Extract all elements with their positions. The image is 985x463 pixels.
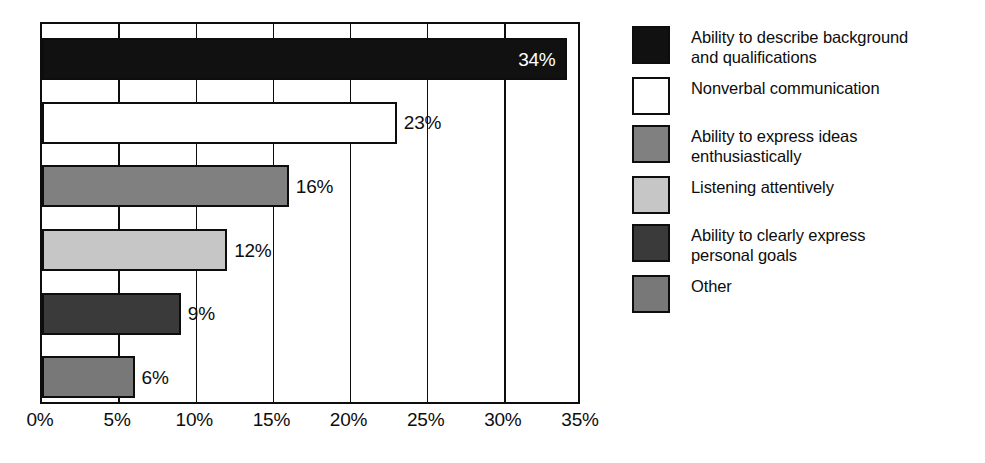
legend-item-5[interactable]: Ability to clearly express personal goal… bbox=[632, 224, 972, 265]
legend-swatch-icon bbox=[632, 176, 670, 214]
x-axis: 0%5%10%15%20%25%30%35% bbox=[40, 404, 580, 440]
bar-value-label: 12% bbox=[234, 241, 271, 260]
bar-5[interactable] bbox=[42, 293, 181, 335]
bar-row: 34% bbox=[42, 38, 578, 80]
bar-value-label: 16% bbox=[296, 177, 333, 196]
bar-chart-figure: 34%23%16%12%9%6% 0%5%10%15%20%25%30%35% … bbox=[0, 0, 985, 463]
legend-item-2[interactable]: Nonverbal communication bbox=[632, 77, 972, 115]
x-tick-label: 35% bbox=[561, 410, 598, 429]
x-tick-label: 5% bbox=[104, 410, 131, 429]
bar-6[interactable] bbox=[42, 356, 135, 398]
legend: Ability to describe background and quali… bbox=[632, 26, 972, 323]
bar-value-label: 34% bbox=[518, 50, 555, 69]
x-tick-label: 15% bbox=[253, 410, 290, 429]
bar-4[interactable] bbox=[42, 229, 227, 271]
legend-label: Ability to clearly express personal goal… bbox=[691, 224, 865, 265]
legend-label: Other bbox=[691, 275, 732, 296]
legend-item-6[interactable]: Other bbox=[632, 275, 972, 313]
legend-swatch-icon bbox=[632, 26, 670, 64]
x-tick-label: 25% bbox=[407, 410, 444, 429]
bar-row: 16% bbox=[42, 165, 578, 207]
legend-swatch-icon bbox=[632, 77, 670, 115]
x-tick-label: 10% bbox=[176, 410, 213, 429]
bar-3[interactable] bbox=[42, 165, 289, 207]
bars-layer: 34%23%16%12%9%6% bbox=[42, 24, 578, 402]
bar-2[interactable] bbox=[42, 102, 397, 144]
legend-label: Ability to express ideas enthusiasticall… bbox=[691, 125, 857, 166]
bar-row: 23% bbox=[42, 102, 578, 144]
x-tick-label: 30% bbox=[484, 410, 521, 429]
legend-item-3[interactable]: Ability to express ideas enthusiasticall… bbox=[632, 125, 972, 166]
bar-value-label: 9% bbox=[188, 304, 215, 323]
x-tick-label: 0% bbox=[26, 410, 53, 429]
legend-label: Ability to describe background and quali… bbox=[691, 26, 908, 67]
bar-row: 6% bbox=[42, 356, 578, 398]
legend-label: Nonverbal communication bbox=[691, 77, 879, 98]
bar-value-label: 6% bbox=[142, 368, 169, 387]
x-tick-label: 20% bbox=[330, 410, 367, 429]
legend-swatch-icon bbox=[632, 275, 670, 313]
bar-row: 9% bbox=[42, 293, 578, 335]
bar-value-label: 23% bbox=[404, 113, 441, 132]
bar-row: 12% bbox=[42, 229, 578, 271]
legend-label: Listening attentively bbox=[691, 176, 834, 197]
bar-1[interactable]: 34% bbox=[42, 38, 567, 80]
plot-area: 34%23%16%12%9%6% bbox=[40, 22, 580, 404]
legend-swatch-icon bbox=[632, 125, 670, 163]
legend-item-1[interactable]: Ability to describe background and quali… bbox=[632, 26, 972, 67]
legend-swatch-icon bbox=[632, 224, 670, 262]
legend-item-4[interactable]: Listening attentively bbox=[632, 176, 972, 214]
